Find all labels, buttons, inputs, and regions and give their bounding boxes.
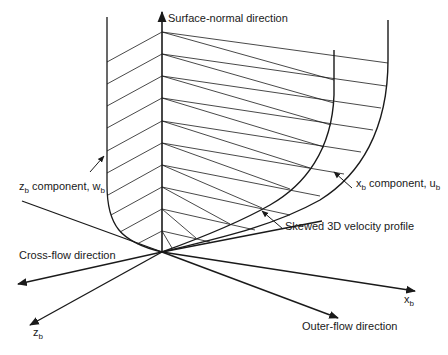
x-component-label: xb component, ub [356,177,441,192]
x-axis [162,252,415,291]
z-axis [30,252,162,325]
skewed-profile-label: Skewed 3D velocity profile [285,220,414,232]
x-axis-label: xb [404,293,415,308]
z-axis-label: zb [33,326,44,341]
x-component-pointer [334,172,352,188]
z-component-label: zb component, wb [19,180,106,195]
z-component-profile [107,17,162,252]
outer-flow-label: Outer-flow direction [302,320,397,332]
skewed-3d-profile [162,32,334,252]
outer-flow-axis [162,252,338,318]
x-component-profile [162,20,388,252]
cross-flow-back-axis [22,201,162,252]
surface-normal-label: Surface-normal direction [168,12,288,24]
cross-flow-label: Cross-flow direction [19,249,116,261]
velocity-profile-diagram: Surface-normal direction zb component, w… [0,0,448,355]
skewed-profile-pointer [262,211,283,229]
z-component-pointer [90,156,104,172]
